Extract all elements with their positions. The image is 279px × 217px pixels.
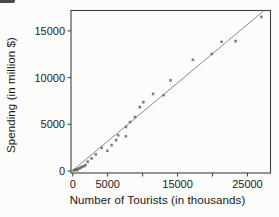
data-point (211, 53, 214, 56)
x-tick-label: 25000 (232, 178, 263, 190)
y-axis-title: Spending (in million $) (5, 37, 17, 153)
regression-line (71, 11, 264, 172)
scatter-points (72, 16, 262, 172)
data-point (134, 116, 137, 119)
data-point (139, 106, 142, 109)
y-tick-label: 5000 (41, 118, 65, 130)
data-point (110, 144, 113, 147)
y-tick-label: 0 (59, 165, 65, 177)
data-point (220, 40, 223, 43)
scatterplot-figure: 050001500025000050001000015000 Number of… (0, 0, 279, 217)
data-point (152, 93, 155, 96)
data-point (129, 121, 132, 124)
data-point (84, 164, 87, 167)
x-tick-label: 15000 (162, 178, 193, 190)
data-point (125, 135, 128, 138)
axis-ticks (68, 31, 248, 177)
data-point (142, 101, 145, 104)
y-tick-label: 10000 (34, 72, 65, 84)
data-point (162, 94, 165, 97)
plot-canvas: 050001500025000050001000015000 (0, 0, 279, 217)
data-point (100, 147, 103, 150)
data-point (117, 134, 120, 137)
y-tick-label: 15000 (34, 25, 65, 37)
data-point (90, 157, 93, 160)
data-point (192, 59, 195, 62)
data-point (260, 16, 263, 19)
data-point (234, 40, 237, 43)
data-point (106, 150, 109, 153)
data-point (169, 79, 172, 82)
data-point (115, 139, 118, 142)
x-tick-label: 5000 (95, 178, 119, 190)
x-axis-title: Number of Tourists (in thousands) (36, 194, 279, 206)
data-point (95, 153, 98, 156)
x-tick-label: 0 (70, 178, 76, 190)
data-point (125, 126, 128, 129)
data-point (86, 160, 89, 163)
